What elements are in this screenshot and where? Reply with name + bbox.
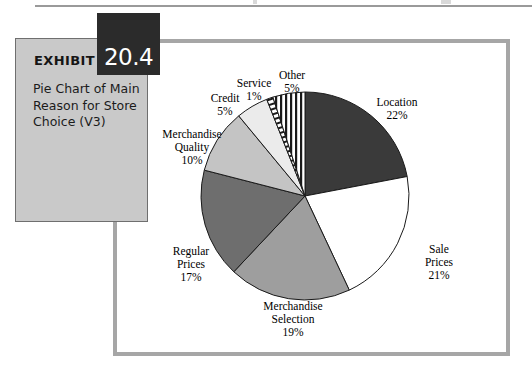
page-header-rule: [35, 5, 532, 7]
pie-label-regular-prices: Regular Prices 17%: [160, 245, 222, 284]
page-header-ghost-mark-2: [441, 0, 451, 4]
exhibit-page: EXHIBIT Pie Chart of Main Reason for Sto…: [0, 0, 532, 384]
exhibit-frame-top: [160, 39, 510, 43]
pie-label-other: Other 5%: [272, 69, 312, 95]
exhibit-description: Pie Chart of Main Reason for Store Choic…: [33, 81, 143, 131]
exhibit-frame-right: [506, 39, 510, 356]
page-header-ghost-mark-1: [253, 0, 257, 4]
pie-label-merchandise-quality: Merchandise Quality 10%: [154, 128, 230, 167]
exhibit-number: 20.4: [97, 13, 160, 75]
pie-label-location: Location 22%: [362, 96, 432, 122]
pie-label-merchandise-selection: Merchandise Selection 19%: [243, 300, 343, 339]
exhibit-frame-bottom: [113, 352, 510, 356]
exhibit-number-badge: 20.4: [97, 13, 160, 75]
pie-label-sale-prices: Sale Prices 21%: [414, 243, 464, 282]
exhibit-frame-left: [113, 222, 117, 356]
pie-slice-group: [201, 92, 409, 300]
exhibit-label: EXHIBIT: [34, 53, 95, 68]
